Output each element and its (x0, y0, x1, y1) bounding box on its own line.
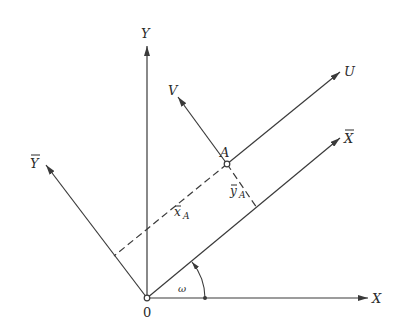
svg-text:A: A (238, 190, 246, 200)
label-xbar-a: x A (174, 205, 190, 221)
diagram-canvas: Y X U V X Y A 0 x A y A ω (0, 0, 393, 335)
label-a: A (219, 145, 229, 160)
label-omega: ω (178, 283, 186, 294)
label-v: V (168, 83, 179, 98)
svg-text:X: X (343, 131, 354, 146)
label-xbar: X (343, 130, 354, 146)
ybar-axis (46, 165, 147, 298)
coordinate-diagram: Y X U V X Y A 0 x A y A ω (0, 0, 393, 335)
label-origin: 0 (143, 305, 151, 320)
svg-text:A: A (182, 211, 190, 221)
label-u: U (344, 64, 356, 79)
origin-point (144, 295, 150, 301)
svg-text:Y: Y (30, 156, 40, 171)
svg-text:x: x (174, 205, 181, 219)
svg-text:y: y (229, 184, 237, 198)
omega-angle-arc (192, 262, 205, 298)
label-ybar: Y (30, 155, 40, 171)
label-ybar-a: y A (229, 184, 246, 200)
u-axis (227, 72, 340, 164)
angle-start-dot (203, 296, 207, 300)
label-y: Y (141, 26, 151, 41)
point-a (224, 161, 230, 167)
xa-projection-line (114, 164, 227, 256)
label-x: X (371, 291, 382, 306)
